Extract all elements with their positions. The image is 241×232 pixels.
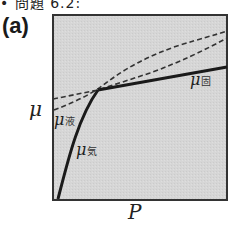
- label-mu-solid-subscript: 固: [201, 76, 211, 87]
- label-mu-gas-symbol: μ: [76, 140, 86, 159]
- plot-background: [53, 15, 227, 200]
- label-mu-liquid: μ液: [54, 110, 75, 129]
- label-mu-solid-symbol: μ: [190, 70, 200, 89]
- label-mu-liquid-subscript: 液: [65, 116, 75, 127]
- label-mu-gas: μ気: [76, 140, 97, 159]
- x-axis-label: P: [128, 200, 141, 224]
- label-mu-liquid-symbol: μ: [54, 110, 64, 129]
- label-mu-gas-subscript: 気: [87, 146, 97, 157]
- label-mu-solid: μ固: [190, 70, 211, 89]
- y-axis-label: μ: [29, 97, 42, 121]
